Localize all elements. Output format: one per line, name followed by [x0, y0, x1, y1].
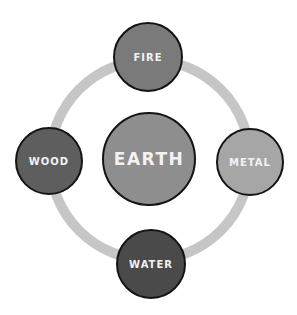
- node-earth-label: EARTH: [114, 149, 184, 169]
- node-water: WATER: [116, 229, 186, 299]
- node-earth-center: EARTH: [102, 112, 196, 206]
- node-metal: METAL: [216, 128, 284, 196]
- node-wood: WOOD: [15, 127, 83, 195]
- node-fire: FIRE: [113, 22, 183, 92]
- node-wood-label: WOOD: [29, 156, 69, 167]
- node-fire-label: FIRE: [133, 52, 162, 63]
- node-metal-label: METAL: [229, 157, 271, 168]
- node-water-label: WATER: [129, 259, 173, 270]
